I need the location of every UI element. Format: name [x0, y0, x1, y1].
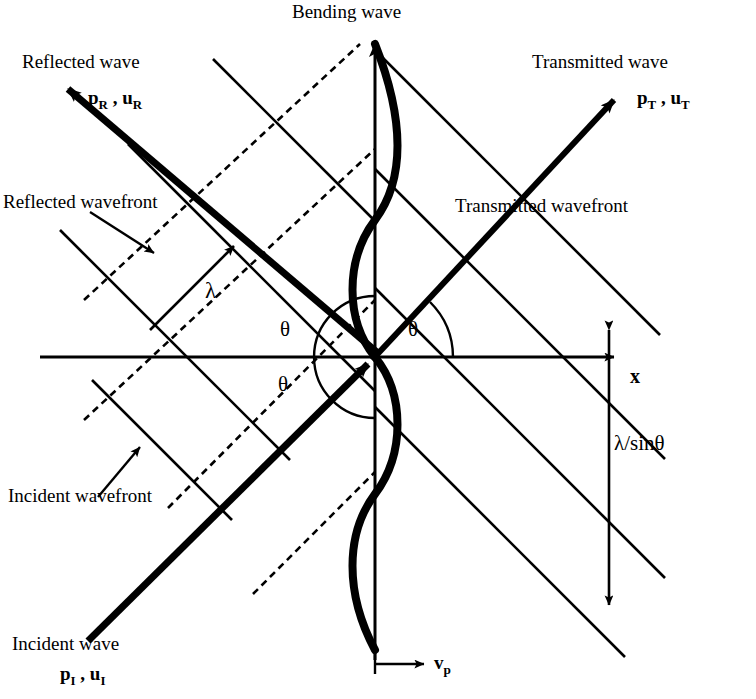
incident-wavefront-label: Incident wavefront [8, 486, 152, 506]
symbol-comma-2: , [656, 87, 670, 108]
reflected-ray [68, 89, 379, 354]
symbol-comma: , [108, 87, 122, 108]
p-T-subscript: T [648, 97, 657, 112]
p-R-symbol: p [88, 87, 99, 108]
lambda-label: λ [205, 279, 216, 303]
transmitted-wavefront-lines [375, 50, 665, 657]
u-T-symbol: u [670, 87, 681, 108]
v-symbol: v [434, 652, 444, 673]
reflected-wavefront-label: Reflected wavefront [3, 192, 158, 212]
transmitted-wave-symbols: pT , uT [637, 88, 690, 111]
symbol-comma-3: , [76, 663, 90, 684]
reflected-wave-label: Reflected wave [22, 52, 140, 72]
v-subscript: p [444, 662, 451, 677]
u-T-subscript: T [681, 97, 690, 112]
theta-upper-left-label: θ [280, 318, 290, 340]
p-T-symbol: p [637, 87, 648, 108]
incident-wave-label: Incident wave [12, 634, 119, 654]
u-R-symbol: u [122, 87, 133, 108]
theta-upper-right-label: θ [408, 318, 418, 340]
reflected-wave-symbols: pR , uR [88, 88, 142, 111]
bending-wave-label: Bending wave [292, 2, 401, 22]
lambda-dimension-line [150, 246, 234, 330]
p-R-subscript: R [99, 97, 108, 112]
transmitted-wavefront-label: Transmitted wavefront [455, 196, 628, 216]
incident-wavefront-lines [84, 44, 375, 594]
theta-lower-left-label: θ [278, 373, 288, 395]
figure-canvas: Bending wave Reflected wave pR , uR Tran… [0, 0, 756, 699]
incident-wave-symbols: pI , uI [60, 664, 105, 687]
u-I-symbol: u [90, 663, 101, 684]
theta-arc-right [430, 302, 453, 357]
reflected-wavefront-lines [60, 59, 375, 520]
reflected-wavefront-leader [90, 212, 154, 253]
u-R-subscript: R [133, 97, 142, 112]
x-axis-label: x [630, 366, 640, 387]
u-I-subscript: I [100, 673, 105, 688]
p-I-symbol: p [60, 663, 71, 684]
transmitted-wave-label: Transmitted wave [532, 52, 668, 72]
trace-wavelength-label: λ/sinθ [614, 432, 665, 454]
phase-speed-label: vp [434, 653, 451, 677]
